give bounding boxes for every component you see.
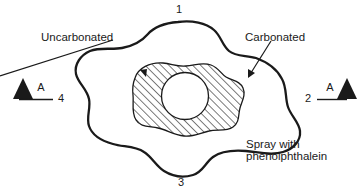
section-letter-left: A (37, 81, 45, 93)
label-uncarbonated: Uncarbonated (41, 31, 113, 43)
note-spray-line1: Spray with (246, 138, 300, 150)
corner-number-top: 1 (176, 3, 182, 15)
reinforcement-bar-hole (162, 73, 209, 120)
label-carbonated: Carbonated (245, 31, 305, 43)
section-letter-right: A (326, 81, 334, 93)
note-spray-line2: phenolphthalein (246, 150, 327, 162)
corner-number-left: 4 (58, 92, 64, 104)
carbonation-section-diagram: Uncarbonated Carbonated Spray with pheno… (0, 0, 364, 195)
corner-number-right: 2 (305, 92, 311, 104)
figure-svg: Uncarbonated Carbonated Spray with pheno… (0, 0, 364, 195)
corner-number-bottom: 3 (178, 176, 184, 188)
